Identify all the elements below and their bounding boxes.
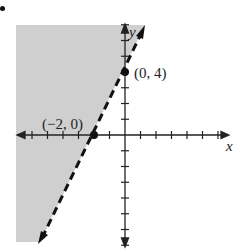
y-axis-label: y: [127, 24, 136, 40]
x-axis-label: x: [225, 138, 233, 154]
point-neg2-0: [90, 131, 98, 139]
inequality-graph: (0, 4) (−2, 0) y x: [0, 0, 243, 252]
point-label-0-4: (0, 4): [134, 65, 167, 82]
point-0-4: [121, 68, 129, 76]
point-label-neg2-0: (−2, 0): [42, 116, 83, 133]
